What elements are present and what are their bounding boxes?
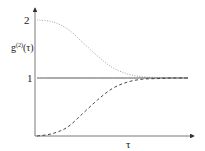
series-dashed-line (37, 78, 188, 136)
x-axis-label: τ (126, 139, 130, 150)
y-tick-2: 2 (24, 15, 30, 26)
y-axis-label: g(2)(τ) (11, 42, 34, 53)
series-dotted-line (37, 20, 188, 78)
y-tick-1: 1 (27, 73, 33, 84)
